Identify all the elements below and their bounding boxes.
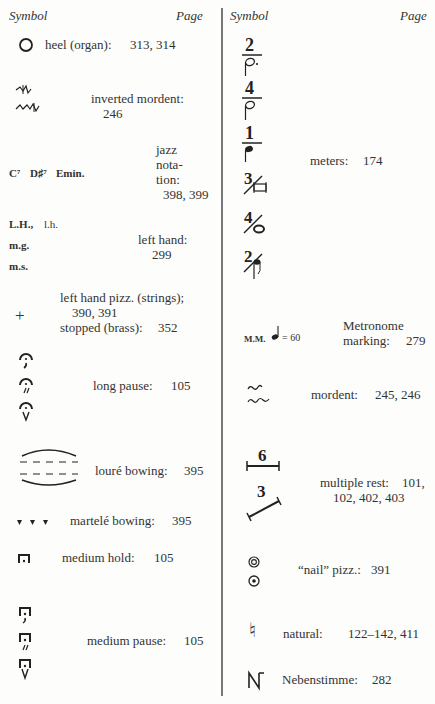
natural-sign-icon: ♮ [249,622,256,638]
entry-term: medium pause: [87,633,166,649]
entry-term-line: tion: [156,172,180,188]
left-page-header: Page [176,8,203,24]
entry-term: stopped (brass): [60,320,143,336]
entry-pages: 246 [103,106,123,122]
entry-pages: 279 [406,333,426,349]
nail-pizz-icon [248,556,262,590]
entry-term: long pause: [93,378,153,394]
entry-term: Nebenstimme: [282,672,358,688]
entry-pages: 395 [184,463,204,479]
entry-term: martelé bowing: [70,513,155,529]
entry-pages: 313, 314 [130,37,176,53]
chord-symbol-d7: D♯⁷ [30,165,47,181]
entry-term: mordent: [311,387,358,403]
right-page-header: Page [400,8,427,24]
entry-pages: 299 [152,247,172,263]
entry-term: meters: [310,153,348,169]
plus-icon: + [15,308,25,324]
entry-pages: 391 [371,562,391,578]
left-symbol-header: Symbol [9,8,47,24]
entry-term-line: marking: [343,333,390,349]
chord-symbol-c7: C⁷ [9,165,20,181]
svg-text:4: 4 [245,78,254,98]
entry-pages: 398, 399 [163,187,209,203]
fermata-variants-icon [19,352,33,424]
mm-label: M.M. [244,331,266,347]
entry-term: natural: [283,626,323,642]
entry-pages-line2: 102, 402, 403 [333,490,405,506]
entry-term: “nail” pizz.: [298,562,361,578]
right-symbol-header: Symbol [230,8,268,24]
svg-text:1: 1 [245,123,254,143]
entry-term: inverted mordent: [91,91,184,107]
entry-pages: 105 [184,633,204,649]
meter-variants-icon: 2 4 1 3 4 2 [242,36,282,306]
entry-pages: 101, [402,475,425,491]
entry-term-line: nota- [156,157,183,173]
mordent-icon [247,383,271,407]
entry-term-line: Metronome [343,318,404,334]
entry-term: left hand pizz. (strings); [60,290,184,306]
multiple-rest-icon: 6 3 [246,447,286,519]
svg-text:3: 3 [257,482,266,501]
svg-text:3: 3 [244,169,253,188]
martele-wedges-icon [16,518,56,528]
entry-term: louré bowing: [95,463,168,479]
entry-pages: 105 [171,378,191,394]
entry-pages: 122–142, 411 [348,626,419,642]
entry-pages: 395 [172,513,192,529]
mg-abbrev: m.g. [9,237,29,253]
entry-term-line: jazz [156,142,177,158]
entry-pages: 352 [158,320,178,336]
circle-icon [18,37,34,53]
square-fermata-icon [18,553,32,565]
entry-pages: 174 [363,153,383,169]
ms-abbrev: m.s. [9,258,28,274]
loure-bowing-icon [18,448,80,488]
entry-term: heel (organ): [45,37,112,53]
entry-pages: 390, 391 [72,305,118,321]
inverted-mordent-icon [15,85,45,115]
svg-text:6: 6 [258,446,267,465]
entry-pages: 105 [154,550,174,566]
lh-abbrev: L.H., [9,216,33,232]
square-fermata-variants-icon [19,606,33,682]
entry-pages: 245, 246 [375,387,421,403]
svg-text:4: 4 [244,208,253,227]
lh-abbrev: l.h. [44,216,58,232]
quarter-note-icon [271,325,281,341]
entry-pages: 282 [372,672,392,688]
svg-text:2: 2 [244,247,253,266]
chord-symbol-emin: Emin. [56,165,84,181]
entry-term: left hand: [138,232,187,248]
entry-term: multiple rest: [320,475,389,491]
tempo-value: = 60 [282,330,300,346]
meter-numerator: 2 [245,35,254,55]
entry-term: medium hold: [62,550,135,566]
column-divider [221,8,223,696]
nebenstimme-icon [247,671,265,689]
